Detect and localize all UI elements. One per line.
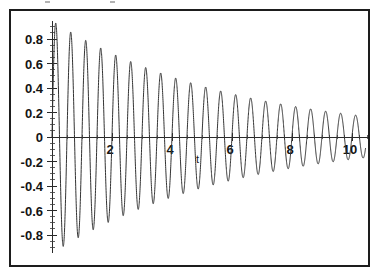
y-axis-tick-label: -0.6 xyxy=(21,204,43,219)
plot-canvas: 246810-0.8-0.6-0.4-0.200.20.40.60.8 t xyxy=(11,11,368,265)
figure-root: 246810-0.8-0.6-0.4-0.200.20.40.60.8 t xyxy=(0,0,384,276)
y-axis-tick-label: 0.6 xyxy=(25,57,43,72)
y-axis-tick-label: 0 xyxy=(36,130,43,145)
scan-artifact-speck xyxy=(110,1,115,3)
scan-artifact-speck xyxy=(45,1,50,3)
y-axis-tick-label: 0.2 xyxy=(25,106,43,121)
axes-group xyxy=(47,21,368,254)
curve-group xyxy=(52,23,366,246)
y-axis-tick-label: -0.4 xyxy=(21,179,44,194)
y-axis-tick-label: -0.8 xyxy=(21,228,43,243)
y-axis-tick-label: -0.2 xyxy=(21,155,43,170)
damped-oscillation-curve xyxy=(52,23,366,246)
x-axis-tick-label: 6 xyxy=(226,142,233,157)
x-axis-tick-label: 2 xyxy=(106,142,113,157)
x-axis-label: t xyxy=(196,153,199,165)
x-axis-tick-label: 4 xyxy=(166,142,174,157)
plot-frame: 246810-0.8-0.6-0.4-0.200.20.40.60.8 t xyxy=(9,9,370,267)
y-axis-tick-label: 0.8 xyxy=(25,32,43,47)
y-axis-tick-label: 0.4 xyxy=(25,81,44,96)
